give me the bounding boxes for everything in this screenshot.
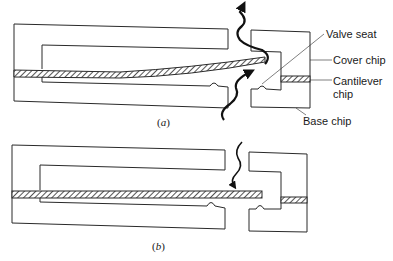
panel-a bbox=[14, 24, 332, 115]
cantilever-stub-a bbox=[281, 76, 310, 82]
left-cover-chip-a bbox=[14, 24, 228, 69]
cantilever-stub-b bbox=[281, 197, 307, 203]
left-base-chip-b bbox=[12, 145, 225, 229]
label-cantilever-chip-2: chip bbox=[333, 88, 353, 100]
cantilever-a bbox=[14, 57, 265, 78]
panel-b bbox=[12, 145, 307, 232]
flow-arrow-in-icon bbox=[222, 72, 250, 120]
cantilever-b bbox=[12, 191, 262, 198]
caption-a: (a) bbox=[157, 116, 170, 128]
leader-base-chip bbox=[296, 108, 306, 115]
flow-arrow-out-icon bbox=[237, 6, 267, 64]
label-cover-chip: Cover chip bbox=[333, 54, 386, 66]
caption-b: (b) bbox=[152, 240, 165, 252]
pressure-arrow-b bbox=[232, 142, 242, 186]
pressure-arrow-icon bbox=[232, 142, 242, 186]
label-cantilever-chip-1: Cantilever bbox=[333, 75, 383, 87]
label-base-chip: Base chip bbox=[303, 115, 351, 127]
label-valve-seat: Valve seat bbox=[326, 28, 377, 40]
left-cover-chip-b bbox=[12, 145, 225, 190]
